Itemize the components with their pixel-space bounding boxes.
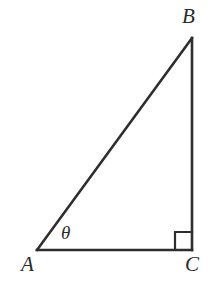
angle-label-theta: θ: [61, 223, 70, 242]
triangle-figure: A B C θ: [0, 0, 214, 287]
triangle-drawing: [0, 0, 214, 287]
vertex-label-a: A: [21, 254, 34, 275]
figure-background: [0, 0, 214, 287]
vertex-label-c: C: [185, 254, 199, 275]
vertex-label-b: B: [182, 6, 195, 27]
